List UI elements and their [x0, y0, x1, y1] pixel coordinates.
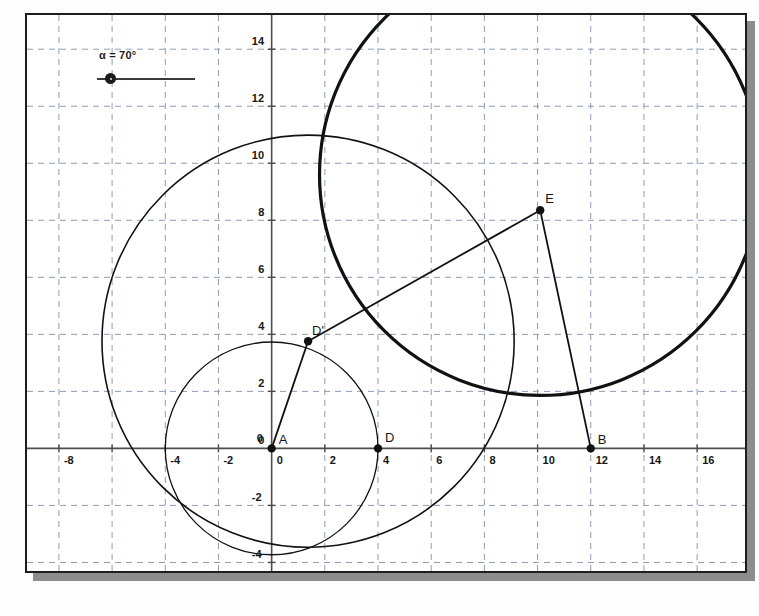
- point-label-A: A: [279, 432, 288, 447]
- point-B[interactable]: [587, 444, 595, 452]
- alpha-slider[interactable]: α = 70°: [75, 49, 215, 93]
- segment-A-Dp[interactable]: [272, 341, 308, 448]
- point-label-Dp: D': [312, 323, 324, 338]
- y-tick-label--4: -4: [252, 548, 262, 560]
- grid-layer: [27, 15, 745, 571]
- x-tick-label-0: 0: [277, 454, 283, 466]
- x-tick-label-14: 14: [649, 454, 661, 466]
- x-tick-label--4: -4: [170, 454, 180, 466]
- x-tick-label-4: 4: [383, 454, 389, 466]
- point-A[interactable]: [267, 444, 275, 452]
- x-tick-label--8: -8: [64, 454, 74, 466]
- point-D[interactable]: [374, 444, 382, 452]
- x-tick-label-2: 2: [330, 454, 336, 466]
- origin-zero-label: 0: [257, 432, 263, 444]
- point-label-E: E: [545, 191, 554, 206]
- y-tick-label-6: 6: [258, 263, 264, 275]
- x-tick-label-12: 12: [596, 454, 608, 466]
- alpha-slider-knob[interactable]: [105, 73, 116, 84]
- point-label-D: D: [385, 430, 394, 445]
- point-E[interactable]: [536, 206, 544, 214]
- applet-page: α = 70° -8-4-20246810121416-4-2024681012…: [0, 0, 759, 616]
- alpha-slider-label: α = 70°: [99, 49, 136, 61]
- x-tick-label-10: 10: [543, 454, 555, 466]
- y-tick-label-10: 10: [252, 149, 264, 161]
- curve-layer: [102, 15, 745, 555]
- segment-E-B[interactable]: [540, 210, 591, 448]
- applet-frame: α = 70° -8-4-20246810121416-4-2024681012…: [25, 13, 747, 573]
- x-tick-label-6: 6: [436, 454, 442, 466]
- x-tick-label-16: 16: [702, 454, 714, 466]
- x-tick-label--2: -2: [223, 454, 233, 466]
- y-tick-label-4: 4: [258, 320, 264, 332]
- circle-E[interactable]: [320, 15, 745, 395]
- y-tick-label-8: 8: [258, 206, 264, 218]
- plot-svg: [27, 15, 745, 571]
- point-label-B: B: [598, 432, 607, 447]
- geometry-canvas[interactable]: [27, 15, 745, 571]
- point-Dp[interactable]: [304, 337, 312, 345]
- x-tick-label-8: 8: [489, 454, 495, 466]
- y-tick-label-14: 14: [252, 35, 264, 47]
- y-tick-label-2: 2: [258, 377, 264, 389]
- y-tick-label-12: 12: [252, 92, 264, 104]
- y-tick-label--2: -2: [252, 491, 262, 503]
